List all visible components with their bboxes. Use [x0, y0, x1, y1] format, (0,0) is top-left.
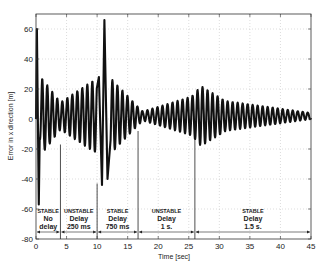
region-state-label: STABLE: [107, 208, 129, 214]
region-state-label: STABLE: [37, 208, 59, 214]
region-labels: STABLENodelayUNSTABLEDelay250 msSTABLEDe…: [37, 208, 310, 234]
region-stable: STABLEDelay750 ms: [98, 208, 137, 234]
x-tick-label: 35: [245, 242, 254, 251]
region-delay-label: Delay: [108, 215, 127, 223]
y-tick-label: 60: [24, 25, 33, 34]
y-tick-label: -20: [21, 145, 33, 154]
y-tick-label: -60: [21, 205, 33, 214]
x-axis-label: Time [sec]: [158, 253, 190, 261]
region-stable: STABLEDelay1.5 s.: [196, 208, 310, 234]
x-tick-label: 0: [34, 242, 39, 251]
x-tick-label: 20: [154, 242, 163, 251]
region-unstable: UNSTABLEDelay1 s.: [139, 208, 194, 234]
x-tick-label: 30: [215, 242, 224, 251]
region-stable: STABLENodelay: [37, 208, 59, 234]
x-tick-label: 15: [123, 242, 132, 251]
region-delay-value: 750 ms: [106, 223, 130, 230]
error-signal-line: [36, 20, 311, 205]
region-delay-label: Delay: [244, 215, 263, 223]
region-delay-value: 1.5 s.: [244, 223, 262, 230]
region-delay-label: Delay: [69, 215, 88, 223]
x-tick-label: 40: [276, 242, 285, 251]
error-chart: -80-60-40-200204060 051015202530354045 S…: [0, 0, 330, 270]
region-delay-value: 1 s.: [161, 223, 173, 230]
y-tick-label: 20: [24, 85, 33, 94]
region-state-label: STABLE: [242, 208, 264, 214]
region-state-label: UNSTABLE: [152, 208, 182, 214]
region-delay-value: delay: [39, 223, 57, 231]
region-delay-label: No: [44, 215, 53, 222]
x-tick-label: 45: [307, 242, 316, 251]
region-delay-label: Delay: [157, 215, 176, 223]
region-state-label: UNSTABLE: [64, 208, 94, 214]
y-tick-label: 40: [24, 55, 33, 64]
region-delay-value: 250 ms: [67, 223, 91, 230]
region-unstable: UNSTABLEDelay250 ms: [61, 208, 96, 234]
y-axis-label: Error in x direction [m]: [7, 92, 15, 161]
y-tick-label: -40: [21, 175, 33, 184]
x-tick-label: 10: [93, 242, 102, 251]
y-tick-label: -80: [21, 235, 33, 244]
x-tick-label: 5: [64, 242, 69, 251]
y-tick-label: 0: [29, 115, 34, 124]
x-tick-label: 25: [184, 242, 193, 251]
